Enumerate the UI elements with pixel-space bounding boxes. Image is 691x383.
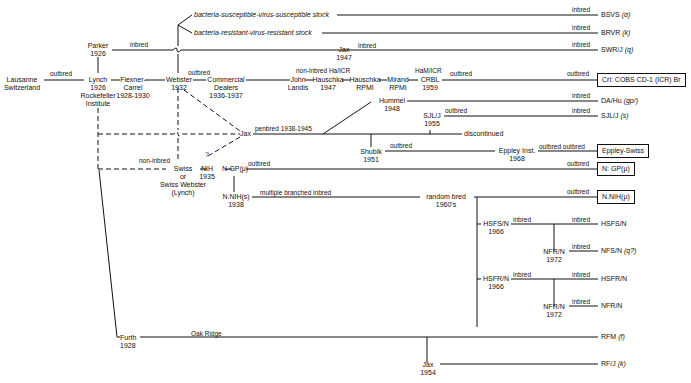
node-jax-1954: Jax 1954	[420, 361, 436, 377]
bacteria-resistant-stock: bacteria-resistant-virus-resistant stock	[194, 29, 312, 37]
terminal-brvr: BRVR (k)	[601, 29, 630, 37]
node-commercial-dealers: Commercial Dealers 1936-1937	[207, 76, 244, 100]
node-mirand-rpmi: Mirand RPMI	[387, 76, 408, 92]
node-lynch: Lynch 1926 Rockefeller Institute	[80, 76, 115, 108]
edge-label-inbred: inbred	[572, 6, 590, 14]
node-eppley-inst: Eppley Inst. 1968	[499, 147, 536, 163]
node-label: 1968	[499, 155, 536, 163]
node-label: 1926	[80, 84, 115, 92]
node-nih-1935: NIH 1935	[199, 165, 215, 181]
edge-label-outbred: outbred	[248, 160, 270, 168]
node-label: 1928	[120, 342, 136, 350]
strain-name: SJL/J	[601, 112, 619, 119]
node-label: 1948	[379, 105, 405, 113]
node-label: 1972	[543, 311, 564, 319]
terminal-eppley-swiss-box: Eppley-Swiss	[597, 144, 649, 158]
edge-label-inbred: inbred	[572, 92, 590, 100]
node-label: Rockefeller	[80, 92, 115, 100]
edge-label-outbred-outbred: outbred outbred	[539, 143, 585, 151]
node-label: Hummel	[379, 97, 405, 105]
node-label: HSFS/N	[483, 220, 509, 228]
terminal-sjl-j: SJL/J (s)	[601, 112, 629, 120]
terminal-swr-j: SWR/J (q)	[601, 46, 633, 54]
node-random-bred: random bred 1960's	[426, 193, 466, 209]
terminal-crl-cobs-cd1-box: Crl: COBS CD-1 (ICR) Br	[597, 73, 686, 87]
edge-label-ham-icr: HaM/ICR	[415, 67, 442, 75]
edge-label-outbred: outbred	[567, 70, 589, 78]
node-label: NFR/N	[543, 303, 564, 311]
terminal-bsvs: BSVS (α)	[601, 11, 630, 19]
strain-name: SWR/J	[601, 46, 623, 53]
node-n-gp: N-GP(μ)	[222, 165, 248, 173]
discontinued-label: discontinued	[464, 130, 503, 138]
node-n-nih-1938: N.NIH(s) 1938	[222, 193, 249, 209]
edge-label-inbred: inbred	[572, 24, 590, 32]
node-label: Jax	[420, 361, 436, 369]
node-hsfr-1966: HSFR/N 1966	[483, 275, 509, 291]
node-label: Switzerland	[4, 84, 40, 92]
node-label: 1928-1930	[116, 92, 149, 100]
node-label: Webster	[166, 76, 192, 84]
node-label: Parker	[88, 42, 109, 50]
edge-label-inbred: inbred	[572, 243, 590, 251]
node-label: Hauschka	[312, 76, 343, 84]
node-label: Jax	[336, 46, 352, 54]
node-label: 1955	[423, 120, 441, 128]
node-hummel: Hummel 1948	[379, 97, 405, 113]
edge-label-multiple-branched-inbred: multiple branched inbred	[260, 189, 331, 197]
node-sjl-1955: SJL/J 1955	[423, 112, 441, 128]
node-label: 1935	[199, 173, 215, 181]
strain-name: BRVR	[601, 29, 620, 36]
node-label: John	[288, 76, 309, 84]
strain-gene: (q)	[625, 46, 634, 53]
terminal-rfm: RFM (f)	[601, 333, 625, 341]
node-nfr-1972-b: NFR/N 1972	[543, 303, 564, 319]
node-label: 1972	[543, 256, 564, 264]
node-label: SJL/J	[423, 112, 441, 120]
strain-gene: (s)	[620, 112, 628, 119]
edge-label-outbred: outbred	[390, 142, 412, 150]
edge-label-outbred: outbred	[567, 160, 589, 168]
node-label: 1960's	[426, 201, 466, 209]
node-label: 1947	[312, 84, 343, 92]
node-label: Eppley Inst.	[499, 147, 536, 155]
node-label: random bred	[426, 193, 466, 201]
node-label: HSFR/N	[483, 275, 509, 283]
strain-gene: (gp/)	[624, 97, 638, 104]
edge-label-inbred: inbred	[572, 41, 590, 49]
node-label: Lynch	[80, 76, 115, 84]
edge-label-inbred: inbred	[513, 216, 531, 224]
node-label: N.NIH(s)	[222, 193, 249, 201]
strain-gene: (f)	[618, 333, 625, 340]
node-parker: Parker 1926	[88, 42, 109, 58]
edge-label-inbred: inbred	[572, 216, 590, 224]
node-webster: Webster 1932	[166, 76, 192, 92]
node-label: Landis	[288, 84, 309, 92]
node-hauschka-rpmi: Hauschka RPMI	[349, 76, 380, 92]
edge-label-non-inbred-ha-icr: non-inbred Ha/ICR	[296, 67, 350, 75]
node-label: NFR/N	[543, 248, 564, 256]
edge-label-inbred: inbred	[130, 41, 148, 49]
node-label: RPMI	[349, 84, 380, 92]
terminal-rf-j: RF/J (k)	[601, 360, 626, 368]
node-nfr-1972-a: NFR/N 1972	[543, 248, 564, 264]
node-flexner-carrel: Flexner- Carrel 1928-1930	[116, 76, 149, 100]
node-jax-1947: Jax 1947	[336, 46, 352, 62]
node-label: 1926	[88, 50, 109, 58]
strain-name: RF/J	[601, 360, 616, 367]
terminal-n-nih-box: N.NIH(μ)	[597, 190, 635, 204]
bacteria-susceptible-stock: bacteria-susceptible-virus-susceptible s…	[194, 11, 329, 19]
node-label: 1936-1937	[207, 92, 244, 100]
node-label: 1947	[336, 54, 352, 62]
edge-label-penbred: penbred 1938-1945	[255, 125, 312, 133]
edge-label-outbred: outbred	[50, 70, 72, 78]
node-label: 1966	[483, 228, 509, 236]
node-hsfs-1966: HSFS/N 1966	[483, 220, 509, 236]
node-label: Shubik	[360, 148, 381, 156]
node-label: Swiss Webster	[160, 181, 206, 189]
node-john-landis: John Landis	[288, 76, 309, 92]
node-label: Carrel	[116, 84, 149, 92]
node-label: NIH	[199, 165, 215, 173]
edge-label-non-inbred: non-inbred	[139, 157, 170, 165]
node-label: Mirand	[387, 76, 408, 84]
